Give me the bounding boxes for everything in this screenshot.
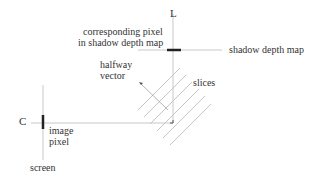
image-pixel-label-line1: image <box>49 125 73 136</box>
corresponding-pixel-label-line1: corresponding pixel <box>83 26 163 37</box>
corresponding-pixel-label-line2: in shadow depth map <box>78 37 163 48</box>
arrowhead-icon <box>139 82 143 85</box>
halfway-vector-label-line2: vector <box>100 70 125 81</box>
slice-line <box>144 75 186 117</box>
slices-label: slices <box>193 77 215 88</box>
image-pixel-label-line2: pixel <box>49 136 69 147</box>
shadow-depth-map-label: shadow depth map <box>229 44 304 55</box>
intersection-marker-icon <box>170 120 173 123</box>
screen-label: screen <box>30 162 56 173</box>
slice-line <box>138 68 180 110</box>
shadow-map-diagram <box>0 0 328 179</box>
light-label: L <box>170 8 177 19</box>
halfway-vector-label-line1: halfway <box>100 59 132 70</box>
camera-label: C <box>19 116 26 127</box>
